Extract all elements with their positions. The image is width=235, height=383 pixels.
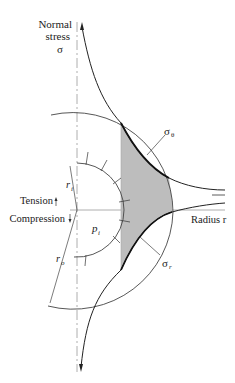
hoop-stress-sub: θ	[171, 131, 175, 139]
radial-stress-label: σ	[162, 257, 168, 269]
hoop-stress-label: σ	[164, 125, 170, 137]
inner-radius-sub: i	[71, 185, 73, 193]
pressure-sub: i	[98, 229, 100, 237]
outer-radius-sub: o	[61, 259, 65, 267]
tension-label: Tension	[20, 195, 54, 206]
y-axis-label-line2: stress	[46, 30, 70, 42]
y-axis-label-line1: Normal	[38, 18, 72, 30]
radial-stress-sub: r	[169, 263, 172, 271]
hoop-stress-curve	[82, 27, 225, 190]
y-axis-symbol: σ	[57, 43, 63, 55]
x-axis-label: Radius r	[191, 214, 227, 225]
stress-diagram: Normal stress σ Tension Compression Radi…	[0, 0, 235, 383]
radial-stress-curve	[81, 203, 225, 367]
compression-label: Compression	[10, 213, 66, 224]
tension-arrowhead	[55, 197, 58, 201]
up-arrow-icon	[80, 22, 84, 30]
hoop-stress-leader	[147, 135, 165, 155]
radial-stress-leader	[140, 237, 160, 255]
compression-arrowhead	[69, 219, 72, 223]
pressure-label: p	[91, 222, 98, 234]
down-arrow-icon	[79, 364, 83, 372]
